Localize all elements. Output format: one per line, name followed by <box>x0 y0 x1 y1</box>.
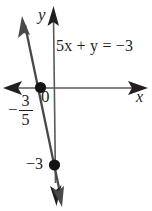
origin-label: 0 <box>41 88 50 105</box>
x-intercept-minus-sign: − <box>8 100 18 122</box>
fraction-numerator: 3 <box>21 93 31 110</box>
y-intercept-point <box>49 159 60 170</box>
axis-label-x: x <box>136 89 143 105</box>
line-top-arrow-icon <box>18 16 30 38</box>
axis-label-y: y <box>38 6 46 23</box>
y-intercept-label: −3 <box>26 156 43 172</box>
fraction-denominator: 5 <box>21 111 31 128</box>
x-intercept-label: − 3 5 <box>8 93 33 128</box>
equation-label: 5x + y = −3 <box>56 38 133 54</box>
x-intercept-fraction: 3 5 <box>19 93 33 128</box>
